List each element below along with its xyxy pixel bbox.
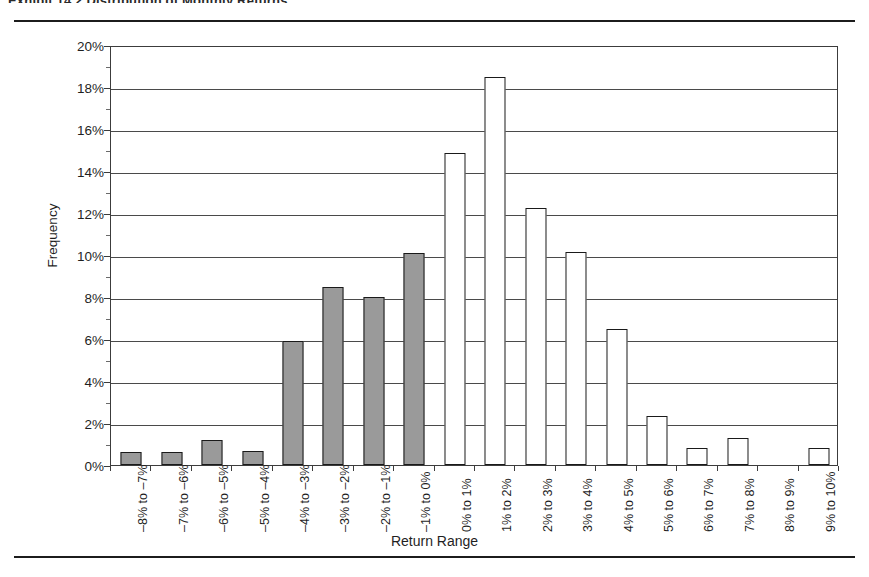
y-axis-minor-tick [106, 109, 110, 110]
x-axis-category-label: 7% to 8% [743, 478, 757, 532]
y-axis-tick-label: 20% [77, 39, 104, 54]
bar[interactable] [121, 452, 142, 465]
x-axis-category-label: 2% to 3% [541, 478, 555, 532]
bar[interactable] [161, 452, 182, 465]
y-axis-minor-tick [106, 235, 110, 236]
bar-slot [677, 47, 717, 465]
bar[interactable] [485, 77, 506, 466]
y-axis-tick-label: 10% [77, 249, 104, 264]
bar[interactable] [727, 438, 748, 465]
y-axis-minor-tick [106, 403, 110, 404]
plot-area [110, 46, 838, 466]
x-axis-category-label: 0% to 1% [460, 478, 474, 532]
bar[interactable] [444, 153, 465, 465]
y-axis-tick [104, 88, 110, 89]
bar-slot [354, 47, 394, 465]
x-axis-category-label: 4% to 5% [622, 478, 636, 532]
x-axis-category-label: 6% to 7% [702, 478, 716, 532]
y-axis-tick [104, 256, 110, 257]
bar-slot [799, 47, 839, 465]
bar[interactable] [202, 440, 223, 465]
bar[interactable] [606, 329, 627, 466]
x-axis-category-label: –4% to –3% [298, 465, 312, 532]
bar[interactable] [323, 287, 344, 466]
bar[interactable] [566, 252, 587, 465]
y-axis-title: Frequency [45, 176, 60, 296]
y-axis-tick-label: 4% [84, 375, 104, 390]
y-axis-tick [104, 298, 110, 299]
y-axis-tick-label: 8% [84, 291, 104, 306]
bar[interactable] [525, 208, 546, 465]
bar[interactable] [404, 253, 425, 465]
x-axis-tick [838, 466, 839, 471]
bar-slot [394, 47, 434, 465]
y-axis-tick-label: 2% [84, 417, 104, 432]
bar[interactable] [808, 448, 829, 465]
bar-slot [596, 47, 636, 465]
bar-slot [192, 47, 232, 465]
y-axis-minor-tick [106, 277, 110, 278]
bar[interactable] [282, 341, 303, 465]
x-axis-category-label: 1% to 2% [500, 478, 514, 532]
y-axis-tick-label: 0% [84, 459, 104, 474]
bar-slot [435, 47, 475, 465]
x-axis-category-label: 8% to 9% [783, 478, 797, 532]
bar-slot [111, 47, 151, 465]
x-axis-category-label: –8% to –7% [136, 465, 150, 532]
bar-slot [475, 47, 515, 465]
x-axis-category-labels: –8% to –7%–7% to –6%–6% to –5%–5% to –4%… [110, 466, 838, 536]
bar-slot [273, 47, 313, 465]
y-axis-tick [104, 382, 110, 383]
exhibit-page: Exhibit 14.2 Distribution of Monthly Ret… [0, 0, 869, 577]
bar[interactable] [687, 448, 708, 465]
y-axis-tick-label: 14% [77, 165, 104, 180]
y-axis-tick [104, 214, 110, 215]
bar-series [111, 47, 837, 465]
bar-slot [637, 47, 677, 465]
bar[interactable] [242, 451, 263, 465]
x-axis-category-label: –3% to –2% [338, 465, 352, 532]
y-axis-minor-tick [106, 67, 110, 68]
y-axis-tick [104, 130, 110, 131]
x-axis-category-label: –6% to –5% [217, 465, 231, 532]
x-axis-category-label: –7% to –6% [177, 465, 191, 532]
x-axis-category-label: 5% to 6% [662, 478, 676, 532]
y-axis-tick-label: 16% [77, 123, 104, 138]
y-axis-tick [104, 172, 110, 173]
bar-slot [758, 47, 798, 465]
y-axis-tick-label: 18% [77, 81, 104, 96]
y-axis-tick [104, 340, 110, 341]
x-axis-category-label: –1% to 0% [419, 472, 433, 532]
bar-slot [151, 47, 191, 465]
bar-slot [232, 47, 272, 465]
y-axis-minor-tick [106, 445, 110, 446]
bottom-rule [14, 556, 855, 558]
x-axis-category-label: –5% to –4% [258, 465, 272, 532]
y-axis-tick-label: 6% [84, 333, 104, 348]
bar-slot [718, 47, 758, 465]
y-axis-minor-tick [106, 193, 110, 194]
bar-slot [556, 47, 596, 465]
y-axis-minor-tick [106, 151, 110, 152]
bar[interactable] [646, 416, 667, 465]
bar[interactable] [363, 297, 384, 465]
x-axis-title: Return Range [0, 533, 869, 549]
y-axis-minor-tick [106, 319, 110, 320]
x-axis-category-label: 3% to 4% [581, 478, 595, 532]
x-axis-category-label: –2% to –1% [379, 465, 393, 532]
y-axis-minor-tick [106, 361, 110, 362]
bar-slot [313, 47, 353, 465]
y-axis-tick-label: 12% [77, 207, 104, 222]
top-rule [14, 20, 855, 22]
y-axis-tick [104, 424, 110, 425]
y-axis-tick [104, 46, 110, 47]
exhibit-title: Exhibit 14.2 Distribution of Monthly Ret… [8, 0, 288, 3]
x-axis-category-label: 9% to 10% [824, 472, 838, 532]
bar-slot [515, 47, 555, 465]
